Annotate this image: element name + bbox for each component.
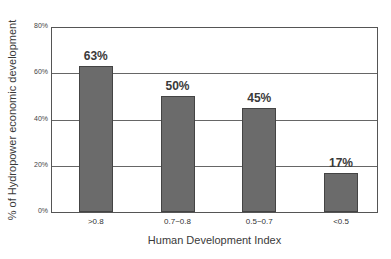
x-tick-label: 0.7~0.8 [143, 217, 213, 226]
bar [242, 108, 276, 212]
x-tick-label: 0.5~0.7 [224, 217, 294, 226]
x-tick-label: >0.8 [61, 217, 131, 226]
bar-chart: % of Hydropower economic development 0%2… [0, 0, 391, 259]
x-tick-label: <0.5 [306, 217, 376, 226]
bar-value-label: 45% [229, 91, 289, 105]
bar-value-label: 50% [148, 79, 208, 93]
bar [79, 66, 113, 212]
y-tick-label: 60% [22, 68, 48, 75]
bar [324, 173, 358, 212]
y-tick-label: 20% [22, 161, 48, 168]
y-tick-label: 80% [22, 22, 48, 29]
x-axis-label: Human Development Index [51, 234, 378, 246]
y-tick-label: 40% [22, 115, 48, 122]
bar [161, 96, 195, 212]
y-tick-label: 0% [22, 207, 48, 214]
y-axis-label: % of Hydropower economic development [6, 20, 18, 221]
bar-value-label: 17% [311, 156, 371, 170]
bar-value-label: 63% [66, 49, 126, 63]
